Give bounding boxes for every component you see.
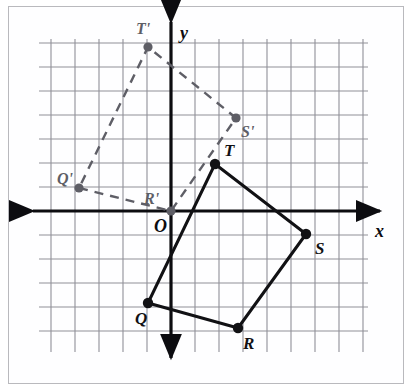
x-axis-label: x [374,221,384,241]
axis-labels: xyO [154,23,384,241]
image-polygon [79,47,236,211]
vertex-label-r-prime: R' [143,190,160,207]
figure-container: QRSTQ'R'S'T' xyO [0,0,413,391]
vertex-point-s-prime [231,113,240,122]
vertex-point-r-prime [166,206,175,215]
coordinate-plane: QRSTQ'R'S'T' xyO [0,0,413,391]
image-quadrilateral [79,47,236,211]
origin-label: O [154,216,167,236]
y-axis-label: y [178,23,189,43]
vertex-point-r [233,323,243,333]
vertex-label-q: Q [135,309,147,328]
vertex-point-t-prime [143,42,152,51]
vertex-label-r: R [242,334,254,353]
grid-lines [39,39,368,352]
vertex-label-s-prime: S' [241,123,255,140]
vertex-label-t-prime: T' [136,20,151,37]
vertex-label-t: T [224,141,235,160]
vertex-points [74,42,311,333]
vertex-label-s: S [315,239,324,258]
vertex-point-s [301,229,311,239]
vertex-point-t [210,159,220,169]
vertex-point-q [143,298,153,308]
vertex-label-q-prime: Q' [57,170,74,187]
vertex-point-q-prime [74,183,83,192]
